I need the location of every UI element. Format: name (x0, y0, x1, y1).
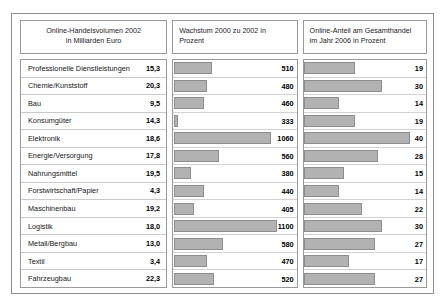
share-bar (304, 220, 382, 232)
bar-row: 510 (173, 60, 296, 78)
table-row: Textil3,4 (21, 253, 166, 271)
bar-row: 405 (173, 200, 296, 218)
share-value: 14 (415, 186, 423, 195)
bar-track (173, 148, 296, 165)
share-value: 28 (415, 151, 423, 160)
bar-track (304, 200, 426, 217)
volume-value: 19,2 (146, 204, 160, 213)
volume-value: 9,5 (150, 99, 160, 108)
growth-bar (174, 273, 214, 285)
growth-bar (174, 203, 194, 215)
bar-row: 380 (173, 165, 296, 183)
bar-row: 520 (173, 270, 296, 287)
category-label: Elektronik (28, 134, 146, 143)
table-row: Maschinenbau19,2 (21, 200, 166, 218)
volume-value: 3,4 (150, 257, 160, 266)
bar-track (173, 113, 296, 130)
table-row: Chemie/Kunststoff20,3 (21, 78, 166, 96)
category-label: Professionelle Dienstleistungen (28, 64, 146, 73)
share-value: 22 (415, 204, 423, 213)
category-label: Forstwirtschaft/Papier (28, 186, 150, 195)
share-value: 14 (415, 99, 423, 108)
table-row: Logistik18,0 (21, 218, 166, 236)
table-row: Bau9,5 (21, 95, 166, 113)
share-bar (304, 62, 355, 74)
growth-bar (174, 220, 277, 232)
volume-value: 18,0 (146, 222, 160, 231)
table-row: Professionelle Dienstleistungen15,3 (21, 60, 166, 78)
bar-track (304, 270, 426, 287)
share-value: 40 (415, 134, 423, 143)
bar-track (304, 218, 426, 235)
volume-value: 14,3 (146, 116, 160, 125)
category-label: Metall/Bergbau (28, 239, 146, 248)
bar-row: 460 (173, 95, 296, 113)
category-label: Konsumgüter (28, 116, 146, 125)
column-headers: Online-Handelsvolumen 2002 in Milliarden… (20, 20, 427, 54)
chart-body: Professionelle Dienstleistungen15,3Chemi… (20, 59, 427, 288)
bar-track (304, 78, 426, 95)
bar-row: 22 (304, 200, 426, 218)
bar-track (173, 95, 296, 112)
volume-value: 4,3 (150, 186, 160, 195)
share-bar (304, 132, 410, 144)
header-growth-line1: Wachstum 2000 zu 2002 in (179, 26, 290, 36)
bar-track (173, 253, 296, 270)
bar-track (173, 60, 296, 77)
share-value: 19 (415, 116, 423, 125)
table-row: Konsumgüter14,3 (21, 113, 166, 131)
bar-row: 15 (304, 165, 426, 183)
category-label: Energie/Versorgung (28, 151, 146, 160)
bar-track (304, 95, 426, 112)
bar-row: 470 (173, 253, 296, 271)
growth-value: 560 (281, 151, 293, 160)
bar-row: 333 (173, 113, 296, 131)
growth-bar (174, 115, 178, 127)
category-label: Nahrungsmittel (28, 169, 146, 178)
bar-row: 440 (173, 183, 296, 201)
bar-track (304, 113, 426, 130)
growth-bar (174, 150, 219, 162)
growth-value: 470 (281, 257, 293, 266)
header-volume-line2: in Milliarden Euro (27, 36, 160, 46)
bar-track (173, 183, 296, 200)
bar-track (304, 183, 426, 200)
bar-row: 1100 (173, 218, 296, 236)
share-value: 30 (415, 222, 423, 231)
share-value: 15 (415, 169, 423, 178)
bar-row: 480 (173, 78, 296, 96)
growth-value: 460 (281, 99, 293, 108)
growth-value: 520 (281, 274, 293, 283)
category-label: Logistik (28, 222, 146, 231)
bar-row: 14 (304, 183, 426, 201)
growth-value: 380 (281, 169, 293, 178)
share-value: 17 (415, 257, 423, 266)
bar-row: 17 (304, 253, 426, 271)
category-label: Fahrzeugbau (28, 274, 146, 283)
growth-bar (174, 132, 271, 144)
growth-value: 510 (281, 64, 293, 73)
bar-row: 30 (304, 218, 426, 236)
share-bar (304, 203, 362, 215)
growth-bar (174, 167, 191, 179)
share-bar (304, 80, 382, 92)
growth-value: 405 (281, 204, 293, 213)
volume-value: 13,0 (146, 239, 160, 248)
bar-row: 27 (304, 270, 426, 287)
growth-value: 480 (281, 81, 293, 90)
column-share-box: 19301419402815142230271727 (303, 59, 427, 288)
bar-track (304, 253, 426, 270)
bar-track (304, 235, 426, 252)
table-row: Nahrungsmittel19,5 (21, 165, 166, 183)
table-row: Energie/Versorgung17,8 (21, 148, 166, 166)
share-bar (304, 115, 355, 127)
column-growth-box: 5104804603331060560380440405110058047052… (172, 59, 297, 288)
header-volume: Online-Handelsvolumen 2002 in Milliarden… (20, 20, 167, 54)
growth-bar (174, 62, 212, 74)
bar-row: 19 (304, 113, 426, 131)
bar-row: 14 (304, 95, 426, 113)
bar-track (173, 235, 296, 252)
volume-value: 18,6 (146, 134, 160, 143)
growth-bar (174, 80, 207, 92)
category-label: Bau (28, 99, 150, 108)
